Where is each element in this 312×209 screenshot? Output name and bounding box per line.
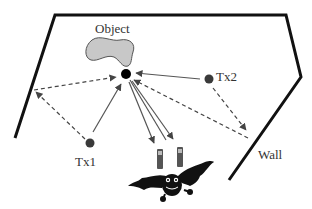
tx2-to-right-wall-path: [213, 88, 246, 130]
object-shape: [86, 38, 134, 67]
object-point: [121, 69, 131, 79]
tx1-node: [86, 139, 95, 148]
tx2-to-object-path: [136, 73, 200, 79]
tx1-label: Tx1: [75, 155, 96, 168]
object-label: Object: [95, 22, 130, 35]
echo-path-3: [130, 80, 166, 140]
echo-path-1: [129, 82, 154, 143]
bat-icon: [128, 147, 214, 202]
tx2-node: [205, 75, 214, 84]
wall-label: Wall: [258, 148, 282, 161]
tx1-to-object-path: [93, 84, 121, 132]
tx2-label: Tx2: [216, 70, 237, 83]
tx1-to-left-wall-path: [36, 92, 85, 139]
left-wall-to-object-path: [34, 77, 116, 90]
diagram-canvas: [0, 0, 312, 209]
